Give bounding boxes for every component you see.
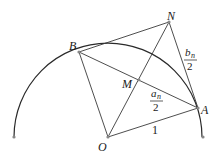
semicircle-arc <box>14 43 202 137</box>
label-OA-length: 1 <box>152 123 158 137</box>
label-A: A <box>200 103 209 117</box>
label-B: B <box>69 39 77 53</box>
segment-OB <box>79 52 108 137</box>
label-an-subscript: n <box>191 51 195 60</box>
label-am-denominator: 2 <box>153 101 159 113</box>
label-M: M <box>121 77 133 91</box>
label-an-denominator: 2 <box>187 60 193 72</box>
label-O: O <box>98 140 107 154</box>
point-A <box>196 106 199 109</box>
point-O <box>106 135 109 138</box>
segment-AN <box>169 22 198 108</box>
point-M <box>138 79 141 82</box>
label-am-subscript: n <box>157 92 161 101</box>
arc-end-right <box>201 135 204 138</box>
label-N: N <box>166 9 176 23</box>
geometry-diagram: O A B N M 1 a n 2 b n 2 <box>0 0 219 157</box>
point-B <box>77 50 80 53</box>
arc-end-left <box>12 135 15 138</box>
